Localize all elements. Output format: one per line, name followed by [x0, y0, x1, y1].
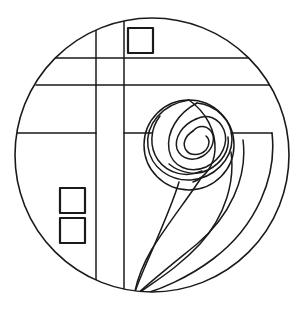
- mackintosh-rose-drawing: [0, 0, 305, 309]
- artwork-canvas: [0, 0, 305, 309]
